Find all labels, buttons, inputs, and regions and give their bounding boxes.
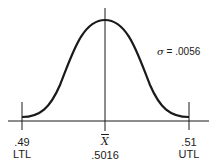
mean-symbol: X	[101, 136, 109, 148]
sigma-value: = .0056	[164, 46, 200, 57]
utl-value: .51	[181, 136, 196, 148]
ltl-label: LTL	[13, 148, 31, 160]
ltl-value: .49	[14, 136, 29, 148]
sigma-symbol: σ	[157, 46, 164, 57]
mean-value: .5016	[91, 149, 119, 161]
utl-label: UTL	[179, 148, 200, 160]
sigma-annotation: σ = .0056	[157, 46, 200, 58]
